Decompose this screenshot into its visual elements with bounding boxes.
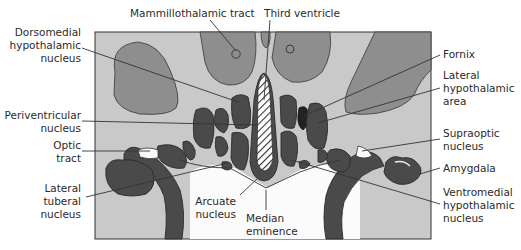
label-periventricular-1: Periventricular — [5, 109, 82, 121]
label-lateral-tuberal-2: tuberal — [43, 195, 81, 207]
label-dorsomedial-2: hypothalamic — [10, 39, 82, 51]
label-lateral-hypothalamic-2: hypothalamic — [443, 82, 515, 94]
label-arcuate-2: nucleus — [195, 208, 236, 220]
mammillothalamic-tract-left — [232, 50, 240, 58]
label-supraoptic-2: nucleus — [443, 140, 484, 152]
label-third-ventricle: Third ventricle — [263, 7, 340, 19]
label-mammillothalamic-tract: Mammillothalamic tract — [130, 7, 255, 19]
label-lateral-tuberal-3: nucleus — [40, 208, 81, 220]
label-periventricular-2: nucleus — [40, 122, 81, 134]
label-fornix: Fornix — [443, 48, 475, 60]
label-optic-2: tract — [56, 152, 81, 164]
label-lateral-tuberal-1: Lateral — [44, 182, 81, 194]
label-ventromedial-1: Ventromedial — [443, 186, 513, 198]
label-lateral-hypothalamic-1: Lateral — [443, 69, 480, 81]
label-dorsomedial-1: Dorsomedial — [15, 26, 81, 38]
label-ventromedial-2: hypothalamic — [443, 199, 515, 211]
label-median-eminence-2: eminence — [246, 225, 298, 237]
lateral-hypothalamic-left — [193, 108, 214, 148]
dorsomedial-nucleus-right — [280, 95, 297, 128]
label-arcuate-1: Arcuate — [195, 195, 236, 207]
mammillothalamic-tract-right — [286, 45, 294, 53]
label-optic-1: Optic — [53, 139, 81, 151]
label-supraoptic-1: Supraoptic — [443, 127, 500, 139]
hypothalamus-coronal-diagram: Mammillothalamic tract Third ventricle D… — [0, 0, 521, 250]
dorsomedial-nucleus-left — [232, 95, 251, 129]
label-dorsomedial-3: nucleus — [40, 52, 81, 64]
ventromedial-nucleus-left — [231, 132, 249, 170]
label-amygdala: Amygdala — [443, 162, 496, 174]
left-optic-gap — [138, 148, 158, 159]
amygdala — [384, 157, 421, 185]
label-ventromedial-3: nucleus — [443, 212, 484, 224]
label-median-eminence-1: Median — [246, 212, 284, 224]
label-lateral-hypothalamic-3: area — [443, 95, 466, 107]
